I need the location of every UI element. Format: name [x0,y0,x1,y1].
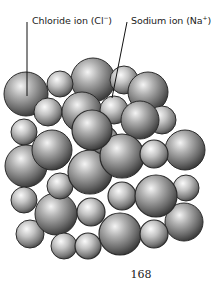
chloride-ion-sphere [121,101,159,139]
chloride-ion-sphere [35,193,77,235]
sodium-ion-sphere [34,98,62,126]
sodium-ion-label: Sodium ion (Na+) [131,14,211,26]
sodium-label-close: ) [207,15,211,26]
chloride-ion-sphere [99,213,141,255]
sodium-ion-sphere [108,182,136,210]
sodium-ion-sphere [77,198,105,226]
sodium-ion-sphere [75,233,101,259]
sodium-ion-sphere [140,220,168,248]
chloride-ion-sphere [165,130,205,170]
chloride-label-close: ) [108,15,112,26]
sodium-ion-sphere [11,119,37,145]
nacl-lattice-diagram [0,0,218,284]
chloride-ion-sphere [32,130,72,170]
chloride-ion-sphere [135,175,177,217]
sodium-ion-sphere [51,233,77,259]
chloride-ion-label: Chloride ion (Cl−) [32,14,112,26]
chloride-ion-sphere [72,110,112,150]
sodium-ion-sphere [140,140,168,168]
page-number: 168 [0,268,218,281]
chloride-label-text: Chloride ion (Cl [32,15,103,26]
sodium-ion-sphere [11,187,37,213]
sodium-ion-sphere [47,71,73,97]
sodium-label-text: Sodium ion (Na [131,15,203,26]
